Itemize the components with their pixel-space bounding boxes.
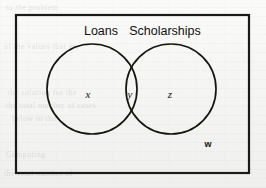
venn-diagram-figure: to the problem of the values that are th… [0, 0, 266, 188]
set-circle-loans [47, 44, 137, 134]
region-label-universe: w [204, 140, 211, 149]
region-label-scholarships-only: z [168, 89, 172, 100]
set-title-loans: Loans [84, 25, 118, 38]
region-label-intersection: y [128, 89, 133, 100]
region-label-loans-only: x [86, 89, 91, 100]
set-title-scholarships: Scholarships [129, 25, 201, 38]
